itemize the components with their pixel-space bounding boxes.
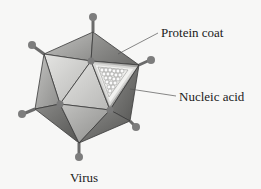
protein-coat-label: Protein coat — [161, 26, 223, 39]
nucleic-acid-leader — [130, 89, 176, 96]
protein-coat-leader — [118, 33, 158, 54]
nucleic-acid-label: Nucleic acid — [179, 90, 244, 103]
diagram-caption: Virus — [70, 171, 98, 184]
protein-coat-capsid — [35, 32, 139, 143]
